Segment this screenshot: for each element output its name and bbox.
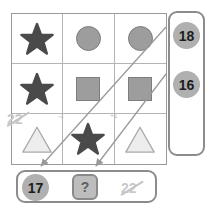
grid-cell-r1c3[interactable] <box>115 14 166 64</box>
operator-label-minus: -1 <box>58 112 64 119</box>
option-badge-16[interactable]: 16 <box>173 71 200 98</box>
square-icon <box>76 77 100 101</box>
star-icon <box>71 122 105 156</box>
circle-icon <box>76 26 101 51</box>
star-icon <box>20 72 54 106</box>
puzzle-canvas: -1 +1 18 16 22 17 ? 22 <box>0 0 213 215</box>
answer-badge-filled[interactable]: 17 <box>22 174 49 201</box>
answer-slot-unknown[interactable]: ? <box>72 174 98 200</box>
grid-cell-r1c1[interactable] <box>12 14 63 64</box>
grid-cell-r1c2[interactable] <box>63 14 114 64</box>
circle-icon <box>128 26 153 51</box>
square-icon <box>128 77 152 101</box>
triangle-icon <box>21 125 53 154</box>
grid-cell-r2c3[interactable] <box>115 64 166 114</box>
struck-option-answer-bar[interactable]: 22 <box>121 180 137 196</box>
grid-cell-r2c1[interactable] <box>12 64 63 114</box>
struck-option-panel[interactable]: 22 <box>7 111 23 127</box>
shape-grid <box>11 13 167 165</box>
grid-cell-r2c2[interactable] <box>63 64 114 114</box>
star-icon <box>20 22 54 56</box>
triangle-icon <box>124 125 156 154</box>
operator-label-plus: +1 <box>110 112 117 119</box>
grid-cell-r3c3[interactable] <box>115 114 166 164</box>
option-panel: 18 16 <box>168 11 205 156</box>
option-badge-18[interactable]: 18 <box>173 22 200 49</box>
grid-cell-r3c2[interactable] <box>63 114 114 164</box>
